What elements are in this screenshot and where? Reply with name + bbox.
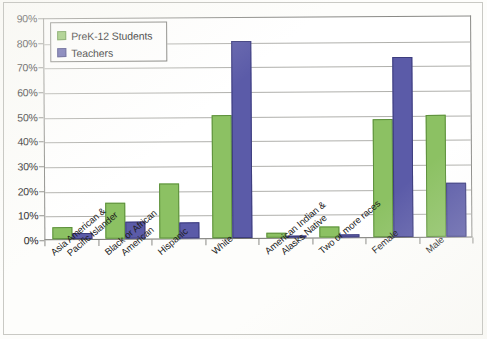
- y-axis-tick-label: 30%: [0, 160, 38, 172]
- x-axis-tick: [365, 238, 366, 244]
- legend-item: PreK-12 Students: [57, 27, 161, 45]
- chart-legend: PreK-12 StudentsTeachers: [50, 21, 167, 62]
- scanned-page: 0%10%20%30%40%50%60%70%80%90% Asia Ameri…: [0, 0, 487, 339]
- x-axis-tick: [419, 238, 420, 244]
- legend-label: PreK-12 Students: [71, 29, 152, 41]
- bar-teachers: [392, 57, 413, 237]
- x-axis-tick: [44, 240, 45, 246]
- y-axis-tick-label: 80%: [0, 37, 37, 49]
- x-axis-tick: [258, 239, 259, 245]
- blue-swatch: [57, 48, 66, 57]
- x-axis-tick: [312, 239, 313, 245]
- y-axis-tick-label: 60%: [0, 86, 38, 98]
- bar-teachers: [231, 41, 252, 238]
- y-axis-tick-label: 90%: [0, 12, 37, 24]
- x-axis-tick: [205, 239, 206, 245]
- bar-chart: 0%10%20%30%40%50%60%70%80%90% Asia Ameri…: [0, 0, 487, 339]
- x-axis-tick: [151, 240, 152, 246]
- x-axis-tick: [472, 238, 473, 244]
- bar-students: [372, 119, 393, 238]
- bar-students: [212, 115, 233, 238]
- green-swatch: [57, 31, 66, 40]
- y-axis-tick-label: 40%: [0, 136, 38, 148]
- bar-students: [426, 115, 447, 237]
- y-axis-tick-label: 20%: [0, 185, 38, 197]
- y-axis-tick-label: 50%: [0, 111, 38, 123]
- y-axis: 0%10%20%30%40%50%60%70%80%90%: [0, 0, 486, 1]
- x-axis: Asia American &Pacific IslanderBlack or …: [0, 0, 486, 1]
- y-axis-tick-label: 70%: [0, 62, 37, 74]
- y-axis-tick-label: 0%: [0, 234, 38, 246]
- legend-label: Teachers: [71, 46, 113, 58]
- x-axis-tick: [98, 240, 99, 246]
- y-axis-tick-label: 10%: [0, 210, 38, 222]
- bar-teachers: [446, 182, 466, 236]
- legend-item: Teachers: [57, 44, 161, 62]
